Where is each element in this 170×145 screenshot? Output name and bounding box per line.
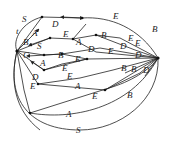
state-transition-diagram: S t D E B A E A B E B S D D E E C B D A … — [0, 0, 170, 145]
edge-label: S — [76, 125, 81, 135]
edge-label: S — [22, 14, 27, 24]
edge-label: E — [112, 11, 119, 21]
edge-label: B — [121, 63, 127, 73]
edge-label: B — [152, 24, 158, 34]
node — [29, 112, 32, 115]
edge-label: B — [58, 50, 64, 60]
node — [81, 17, 84, 20]
node — [43, 54, 46, 57]
edge-label: B — [23, 37, 29, 47]
node-right-hub — [156, 56, 159, 59]
node — [37, 83, 40, 86]
node — [95, 34, 98, 37]
edge-label: B — [101, 30, 107, 40]
edge-label: D — [51, 19, 59, 29]
node — [41, 16, 44, 19]
node — [49, 37, 52, 40]
edge-label: B — [131, 64, 137, 74]
edge-label: E — [134, 38, 141, 48]
edge-label: C — [23, 50, 30, 60]
edge-label: A — [31, 28, 38, 38]
edge-label: S — [37, 41, 42, 51]
edge-label: A — [65, 109, 72, 119]
edge-S-bottom — [14, 51, 158, 130]
edge-label: A — [39, 58, 46, 68]
edge-label: E — [107, 46, 114, 56]
node-left-hub — [15, 49, 18, 52]
edge-label: E — [127, 33, 134, 43]
edge-label: E — [29, 81, 36, 91]
node — [86, 58, 89, 61]
node — [104, 89, 107, 92]
edge-E-bottom — [30, 58, 158, 113]
edge-label: E — [62, 29, 69, 39]
edge-labels: S t D E B A E A B E B S D D E E C B D A … — [16, 11, 158, 135]
edge-label: D — [142, 65, 150, 75]
node — [72, 38, 75, 41]
edge-label: B — [127, 90, 133, 100]
node — [43, 69, 46, 72]
edge-label: E — [66, 71, 73, 81]
edge-label: D — [119, 41, 127, 51]
edge-label: D — [87, 44, 95, 54]
edge-label: A — [74, 81, 81, 91]
edge-label: E — [91, 91, 98, 101]
edge-left-down — [14, 51, 40, 130]
edge-label: D — [134, 50, 142, 60]
edge-label: E — [74, 54, 81, 64]
edge-label: A — [75, 37, 82, 47]
